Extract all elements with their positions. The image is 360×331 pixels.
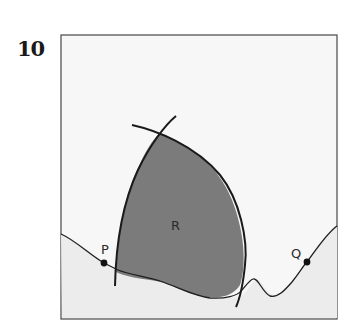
point-q xyxy=(304,259,311,266)
label-q: Q xyxy=(291,246,301,261)
point-p xyxy=(101,260,108,267)
label-r: R xyxy=(171,218,180,233)
geometry-diagram: P Q R xyxy=(0,0,360,331)
label-p: P xyxy=(101,242,109,257)
